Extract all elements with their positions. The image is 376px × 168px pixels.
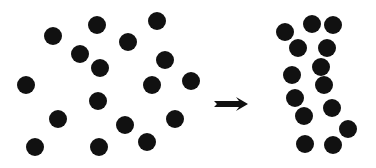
particle-dot xyxy=(88,16,106,34)
diagram-canvas xyxy=(0,0,376,168)
particle-dot xyxy=(143,76,161,94)
particle-dot xyxy=(182,72,200,90)
particle-dot xyxy=(119,33,137,51)
particle-dot xyxy=(312,58,330,76)
particle-dot xyxy=(44,27,62,45)
particle-dot xyxy=(90,138,108,156)
particle-dot xyxy=(156,51,174,69)
scattered-dots-group xyxy=(17,12,200,156)
particle-dot xyxy=(303,15,321,33)
particle-dot xyxy=(26,138,44,156)
particle-dot xyxy=(286,89,304,107)
particle-dot xyxy=(296,135,314,153)
transition-arrow-icon xyxy=(214,97,248,111)
particle-dot xyxy=(295,107,313,125)
particle-dot xyxy=(276,23,294,41)
particle-dot xyxy=(315,76,333,94)
particle-dot xyxy=(283,66,301,84)
particle-dot xyxy=(71,45,89,63)
particle-dot xyxy=(148,12,166,30)
particle-dot xyxy=(89,92,107,110)
particle-dot xyxy=(324,136,342,154)
particle-dot xyxy=(339,120,357,138)
particle-dot xyxy=(138,133,156,151)
particle-dot xyxy=(91,59,109,77)
particle-dot xyxy=(166,110,184,128)
clustered-dots-group xyxy=(276,15,357,154)
particle-dot xyxy=(289,39,307,57)
particle-dot xyxy=(318,39,336,57)
particle-dot xyxy=(17,76,35,94)
particle-dot xyxy=(49,110,67,128)
particle-dot xyxy=(323,99,341,117)
particle-dot xyxy=(116,116,134,134)
particle-dot xyxy=(324,16,342,34)
